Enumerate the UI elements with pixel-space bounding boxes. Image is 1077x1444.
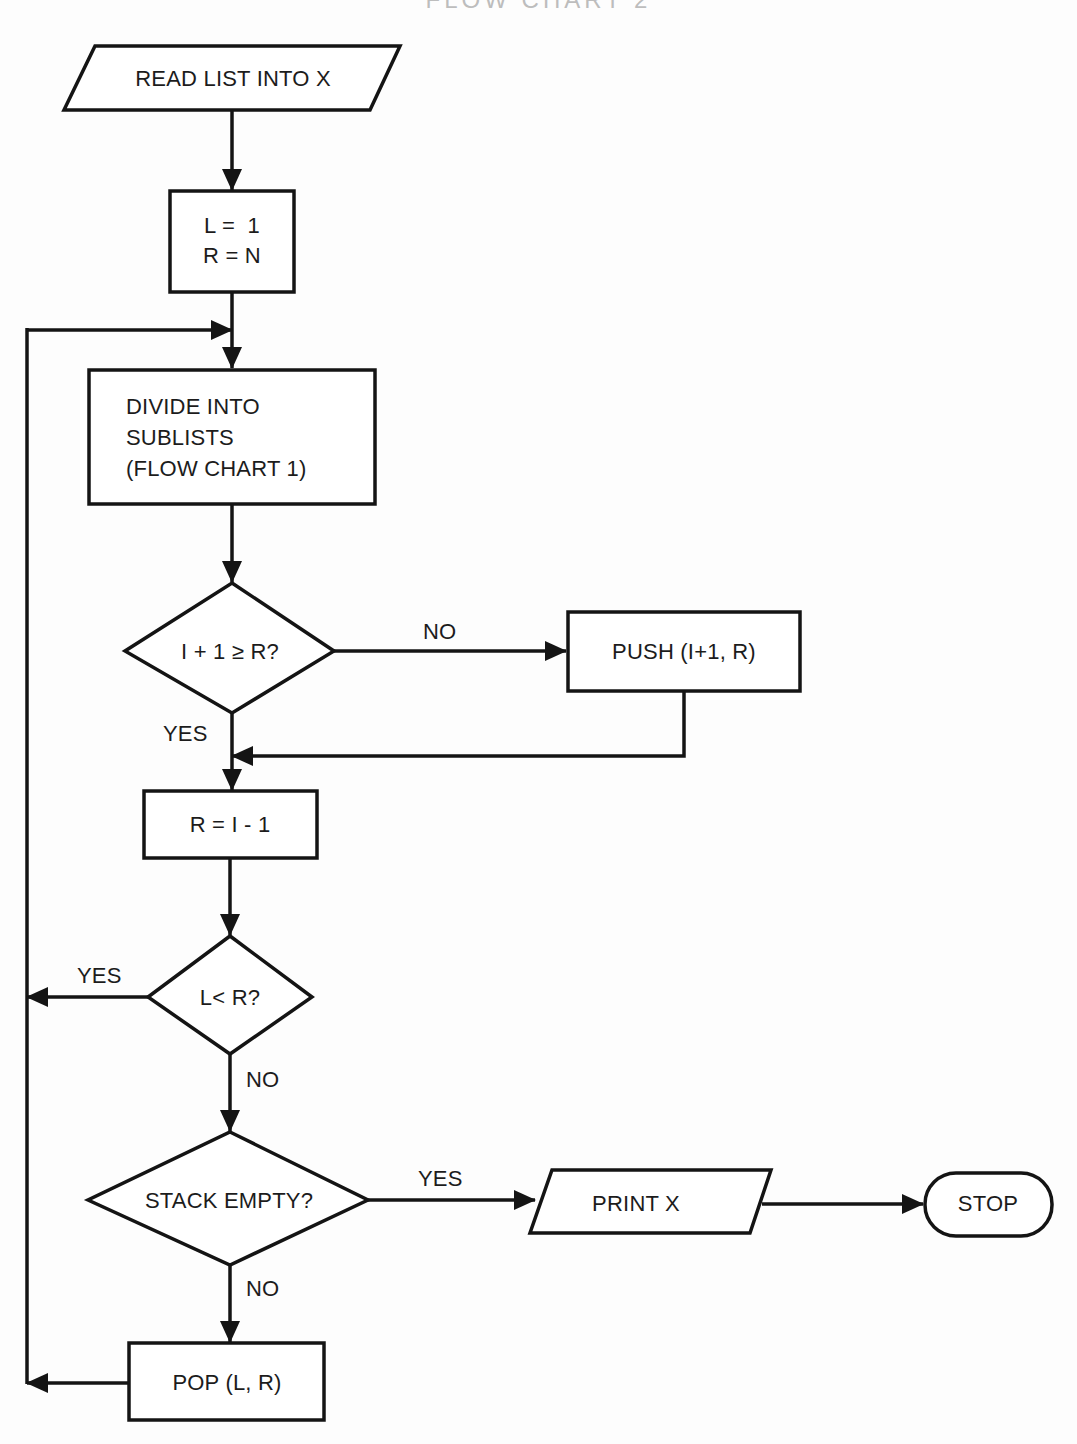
test1-node-label: I + 1 ≥ R?: [181, 636, 279, 667]
init-node-line-1: L = 1: [204, 210, 260, 241]
init-node-line-2: R = N: [203, 240, 261, 271]
edge-label-test3-yes: YES: [418, 1163, 463, 1194]
stop-node-label: STOP: [958, 1188, 1018, 1219]
push-node-label: PUSH (I+1, R): [612, 636, 756, 667]
edge-label-test2-yes: YES: [77, 960, 122, 991]
divide-node-line-1: DIVIDE INTO: [126, 391, 260, 422]
assign-node-label: R = I - 1: [190, 809, 271, 840]
edge-push-to-assign: [232, 691, 684, 756]
edge-label-test1-yes: YES: [163, 718, 208, 749]
edge-label-test1-no: NO: [423, 616, 456, 647]
flowchart-graphics: [0, 0, 1077, 1444]
divide-node-line-3: (FLOW CHART 1): [126, 453, 306, 484]
test3-node-label: STACK EMPTY?: [145, 1185, 313, 1216]
read-list-node-label: READ LIST INTO X: [135, 63, 331, 94]
flowchart-canvas: FLOW CHART 2: [0, 0, 1077, 1444]
pop-node-label: POP (L, R): [172, 1367, 281, 1398]
edge-label-test2-no: NO: [246, 1064, 279, 1095]
test2-node-label: L< R?: [200, 982, 260, 1013]
print-node-label: PRINT X: [592, 1188, 680, 1219]
divide-node-line-2: SUBLISTS: [126, 422, 234, 453]
edge-label-test3-no: NO: [246, 1273, 279, 1304]
